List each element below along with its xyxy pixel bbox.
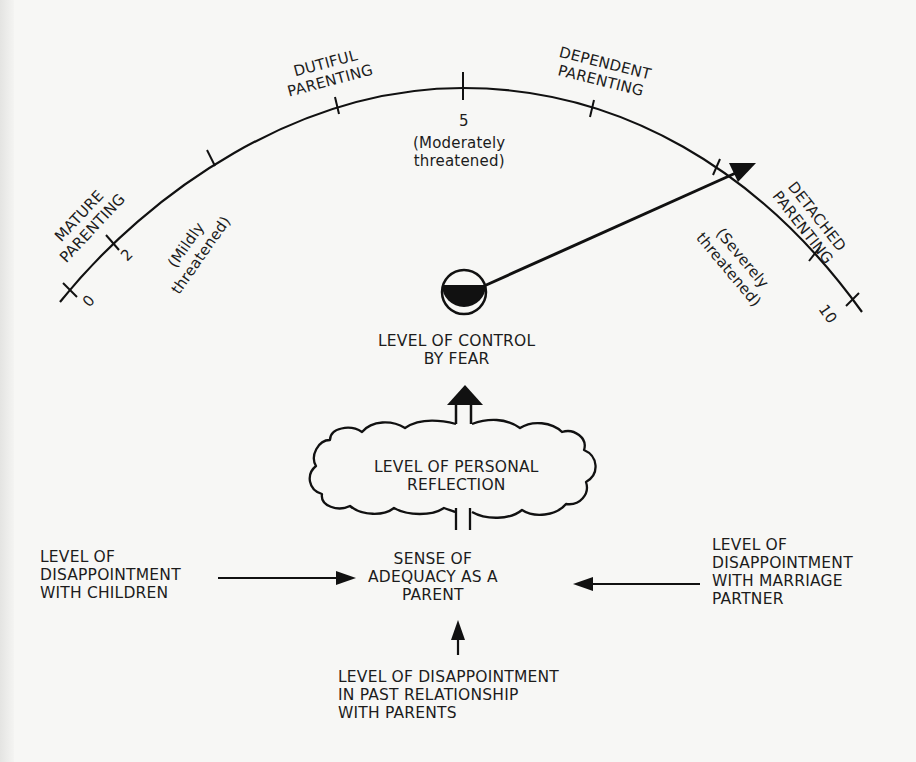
tick-4 — [335, 97, 339, 114]
threat-label-moderate: (Moderately threatened) — [413, 134, 505, 170]
tick-3 — [207, 150, 215, 166]
node-sense-of-adequacy: SENSE OF ADEQUACY AS A PARENT — [368, 550, 498, 604]
gauge-pivot-icon — [442, 270, 486, 314]
arrow-reflection-to-control — [447, 385, 483, 424]
scale-label-5: 5 — [459, 112, 469, 130]
node-disappointment-children: LEVEL OF DISAPPOINTMENT WITH CHILDREN — [40, 548, 181, 602]
arrow-parents-to-adequacy — [451, 620, 465, 655]
node-personal-reflection: LEVEL OF PERSONAL REFLECTION — [374, 458, 539, 494]
node-control-by-fear: LEVEL OF CONTROL BY FEAR — [378, 332, 535, 368]
connector-adequacy-to-reflection — [456, 508, 470, 530]
node-disappointment-parents: LEVEL OF DISAPPOINTMENT IN PAST RELATION… — [338, 668, 559, 722]
diagram-canvas — [0, 0, 916, 762]
node-disappointment-partner: LEVEL OF DISAPPOINTMENT WITH MARRIAGE PA… — [712, 536, 853, 608]
arrow-partner-to-adequacy — [573, 577, 700, 591]
arrow-children-to-adequacy — [218, 571, 356, 585]
